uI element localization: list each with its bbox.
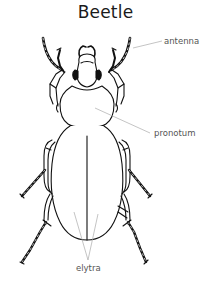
label-pronotum: pronotum	[154, 128, 196, 138]
pronotum-shape	[60, 86, 114, 127]
label-elytra: elytra	[76, 263, 101, 273]
leader-antenna	[133, 41, 162, 48]
label-antenna: antenna	[164, 36, 199, 46]
